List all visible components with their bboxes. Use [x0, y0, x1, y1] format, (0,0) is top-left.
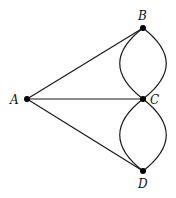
edge-c-d-right — [143, 99, 166, 171]
edge-c-d-left — [120, 99, 143, 171]
edge-a-d — [27, 99, 143, 171]
label-b: B — [137, 9, 147, 23]
node-b — [140, 25, 146, 31]
edge-a-b — [27, 28, 143, 99]
edge-b-c-left — [120, 28, 143, 99]
node-d — [140, 168, 146, 174]
node-a — [24, 96, 30, 102]
labels: A B C D — [9, 9, 159, 191]
label-a: A — [9, 93, 19, 107]
edge-b-c-right — [143, 28, 166, 99]
graph-diagram: A B C D — [0, 0, 176, 198]
label-d: D — [137, 177, 148, 191]
label-c: C — [150, 93, 159, 107]
node-c — [140, 96, 146, 102]
